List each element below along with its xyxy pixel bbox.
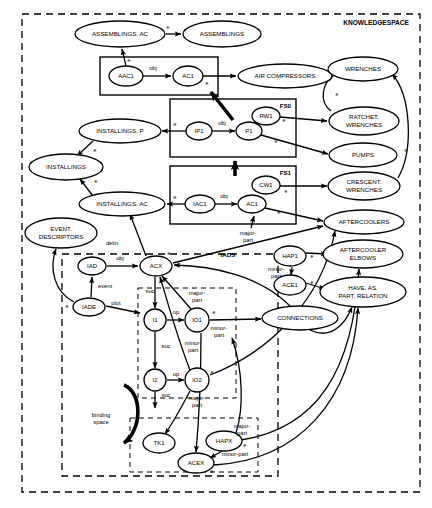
- node-label-installings_ac: INSTALLINGS. AC: [96, 200, 148, 207]
- edge-fs1-to-fs0-thick: [211, 92, 233, 120]
- edge-label-e-io2: e: [211, 369, 214, 375]
- edge-installingsp-to-installings: [77, 141, 93, 156]
- edge-label-minorpart-acex: minor-part: [222, 451, 249, 457]
- edge-label-op-i1-io1: op: [173, 309, 179, 315]
- edge-label-e-installingsp-installings: e: [94, 147, 97, 153]
- node-label-acex: ACEX: [188, 460, 204, 466]
- edge-label-majorpart-io1: major-part: [189, 290, 205, 303]
- edge-iade-to-i1region: [106, 306, 140, 313]
- node-label-acx: ACX: [150, 263, 162, 269]
- node-label-iac1: IAC1: [193, 201, 207, 207]
- node-label-wrenches: WRENCHES: [345, 65, 381, 72]
- edge-label-obj-aac1-ac1: obj: [149, 65, 157, 71]
- edge-label-e-wrenches-ratchet: e: [336, 91, 339, 97]
- node-label-iade: IADE: [82, 304, 96, 310]
- edge-binding-space-thick: [124, 385, 138, 443]
- edge-label-e-io1-connections: e: [213, 309, 216, 315]
- edge-label-e-acex: e: [211, 468, 214, 474]
- edge-label-e-rw1-ratchet: e: [283, 117, 286, 123]
- edge-label-e-ip1-installingsp: e: [174, 121, 177, 127]
- node-label-ac1_fs2: AC1: [246, 201, 258, 207]
- node-label-rw1: RW1: [259, 113, 273, 119]
- region-label-fs1: FS0: [280, 102, 292, 109]
- edge-label-delin: delin: [106, 240, 118, 246]
- edge-label-minorpart-mid: minor-part: [185, 340, 201, 353]
- edge-label-minorpart-io1: minor-part: [211, 325, 227, 338]
- node-label-aftercoolers: AFTERCOOLERS: [339, 218, 390, 225]
- edge-installingsac-to-delin-acx: [130, 214, 146, 256]
- edge-p1-to-pumps: [261, 135, 328, 154]
- node-label-connections: CONNECTIONS: [277, 314, 323, 321]
- edge-label-obj-iad-acx: obj: [116, 255, 124, 261]
- region-label-fs2: FS1: [280, 169, 292, 176]
- node-label-assemblings: ASSEMBLINGS: [200, 30, 244, 37]
- edge-label-majorpart-io2: major-part: [189, 395, 205, 408]
- edge-hapx-major-up: [232, 338, 241, 433]
- node-label-ratchet_wrenches: RATCHET.WRENCHES: [346, 113, 382, 128]
- node-label-hapx: HAPX: [216, 438, 232, 444]
- node-label-ip1: IP1: [194, 128, 204, 134]
- edge-label-e-wrenches-crescent: e: [405, 147, 408, 153]
- node-label-crescent_wrenches: CRESCENT.WRENCHES: [346, 178, 382, 193]
- edge-io1-to-acx-majorpart: [162, 276, 191, 309]
- edge-label-e-hap1: e: [311, 253, 314, 259]
- edge-iade-to-iad: [91, 277, 92, 297]
- node-label-io2: IO2: [192, 377, 202, 383]
- node-label-p1: P1: [245, 128, 253, 134]
- edge-label-obj-ip1-p1: obj: [218, 120, 226, 126]
- node-label-air_compressors: AIR COMPRESSORS: [255, 72, 316, 79]
- node-label-ac1_fs0: AC1: [182, 73, 194, 79]
- edge-label-e-iade: e: [66, 303, 69, 309]
- edge-label-e-acx-top: e: [168, 250, 171, 256]
- edge-hapx-to-acex-minorpart: [210, 451, 222, 458]
- node-label-io1: IO1: [192, 317, 202, 323]
- edge-label-e-ac1-aircompressors: e: [206, 80, 209, 86]
- edge-label-e-ace1: e: [311, 279, 314, 285]
- edge-rw1-to-ratchetwrenches: [280, 117, 327, 121]
- edge-label-e-installingsac-installings: e: [95, 178, 98, 184]
- edge-label-e-cw1-crescent: e: [285, 188, 288, 194]
- region-fs2: [170, 166, 296, 224]
- edge-label-e-assemblings-el: e: [167, 24, 170, 30]
- edge-label-obj-iac1-ac1: obj: [220, 193, 228, 199]
- edge-ac1fs2-to-aftercoolers: [265, 208, 323, 221]
- node-label-i1: I1: [152, 317, 158, 323]
- node-label-pumps: PUMPS: [352, 151, 374, 158]
- node-label-cw1: CW1: [259, 182, 273, 188]
- edge-label-e-p1-pumps: e: [275, 138, 278, 144]
- edge-label-event: event: [98, 283, 113, 289]
- frame-title-knowledgespace: KNOWLEDGESPACE: [343, 19, 409, 26]
- edge-hap1-to-ace1: [291, 267, 292, 275]
- edge-label-e-aac1-assemblings-el: e: [128, 57, 131, 63]
- edge-ac1fs2-to-acx-majorpart: [251, 216, 254, 228]
- edge-label-e-ac1-aftercoolers: e: [278, 209, 281, 215]
- knowledgespace-diagram: ASSEMBLINGS. ACASSEMBLINGSAAC1AC1AIR COM…: [0, 0, 432, 508]
- node-label-iad: IAD: [87, 263, 98, 269]
- edge-label-binding-space: bindingspace: [92, 412, 111, 425]
- edge-label-e-iac1-installingsac: e: [174, 194, 177, 200]
- edge-label-suc-i1-i2: suc: [161, 343, 170, 349]
- edge-iade-to-eventdescriptors: [53, 249, 74, 302]
- edge-label-op-i2-io2: op: [173, 371, 179, 377]
- edge-label-majorpart-hapx: major-part: [234, 423, 250, 436]
- edge-label-e-hapx: e: [244, 442, 247, 448]
- node-label-i2: I2: [152, 377, 158, 383]
- edge-label-suc-acx-i1: suc: [145, 288, 154, 294]
- edge-installingsac-to-installings: [80, 179, 93, 196]
- edge-label-iads-label: IADS: [221, 251, 236, 258]
- node-label-hap1: HAP1: [282, 253, 298, 259]
- edge-label-majorpart-ac1: major-part: [240, 230, 256, 243]
- diagram-canvas: ASSEMBLINGS. ACASSEMBLINGSAAC1AC1AIR COM…: [0, 0, 432, 508]
- node-label-tk1: TK1: [153, 440, 165, 446]
- edge-io1-to-connections: [210, 319, 261, 320]
- node-label-assemblings_ac: ASSEMBLINGS. AC: [92, 30, 149, 37]
- node-label-ace1: ACE1: [282, 282, 298, 288]
- edge-label-suc-i2-down: suc: [161, 392, 170, 398]
- node-label-installings: INSTALLINGS: [46, 163, 86, 170]
- node-label-aac1: AAC1: [118, 73, 134, 79]
- edge-label-plot: plot: [111, 300, 121, 306]
- node-label-installings_p: INSTALLINGS. P: [96, 127, 143, 134]
